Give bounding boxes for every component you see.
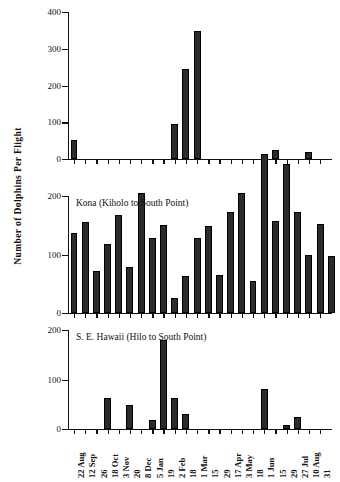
panel-kona-x-tick bbox=[152, 313, 153, 318]
panel-kona-x-tick bbox=[108, 313, 109, 318]
panel-kona-label: Kona (Kiholo to South Point) bbox=[76, 198, 188, 208]
bar bbox=[160, 340, 167, 429]
bar bbox=[149, 420, 156, 429]
panel-top-y-tick-label: 200 bbox=[48, 81, 62, 90]
panel-top-plot-area: 0100200300400 bbox=[68, 12, 332, 160]
panel-kona-x-tick bbox=[320, 313, 321, 318]
bar bbox=[227, 212, 234, 313]
panel-kona-x-tick bbox=[287, 313, 288, 318]
bar bbox=[160, 225, 167, 313]
panel-kona-y-tick-label: 200 bbox=[48, 192, 62, 201]
panel-top-x-tick bbox=[85, 159, 86, 164]
bar bbox=[261, 154, 268, 313]
bar bbox=[171, 124, 178, 159]
panel-se-hawaii-y-tick bbox=[62, 330, 68, 331]
panel-se-hawaii-y-tick-label: 200 bbox=[48, 326, 62, 335]
panel-kona-y-tick bbox=[62, 255, 68, 256]
panel-kona-x-tick bbox=[208, 313, 209, 318]
panel-kona-x-tick bbox=[275, 313, 276, 318]
panel-kona-x-tick bbox=[231, 313, 232, 318]
panel-kona-y-tick bbox=[62, 313, 68, 314]
bar bbox=[82, 222, 89, 313]
panel-top-x-tick bbox=[309, 159, 310, 164]
panel-kona-x-tick bbox=[96, 313, 97, 318]
bar bbox=[93, 271, 100, 313]
bar bbox=[294, 417, 301, 429]
panel-top-y-tick bbox=[62, 49, 68, 50]
panel-top-y-tick-label: 0 bbox=[57, 155, 62, 164]
panel-top-y-tick bbox=[62, 159, 68, 160]
bar bbox=[182, 69, 189, 159]
panel-kona-y-tick-label: 0 bbox=[57, 309, 62, 318]
panel-top-y-tick-label: 300 bbox=[48, 44, 62, 53]
panel-se-hawaii-y-tick bbox=[62, 380, 68, 381]
bar bbox=[305, 255, 312, 314]
bar bbox=[216, 275, 223, 313]
bar bbox=[182, 414, 189, 429]
panel-se-hawaii-y-tick-label: 100 bbox=[48, 375, 62, 384]
panel-top-x-tick bbox=[119, 159, 120, 164]
panel-top-x-tick bbox=[231, 159, 232, 164]
panel-top-y-axis bbox=[68, 12, 69, 160]
panel-kona-x-tick bbox=[175, 313, 176, 318]
panel-top-y-tick-label: 100 bbox=[48, 118, 62, 127]
panel-kona-x-tick bbox=[242, 313, 243, 318]
panel-top-x-tick bbox=[108, 159, 109, 164]
bar bbox=[104, 398, 111, 429]
bar bbox=[328, 256, 335, 313]
bar bbox=[104, 244, 111, 313]
panel-se-hawaii-plot-area: 0100200S. E. Hawaii (Hilo to South Point… bbox=[68, 330, 332, 430]
panel-top-y-tick bbox=[62, 86, 68, 87]
y-axis-title: Number of Dolphins Per Flight bbox=[13, 81, 29, 311]
panel-se-hawaii-y-tick-label: 0 bbox=[57, 425, 62, 434]
bar bbox=[261, 389, 268, 429]
bar bbox=[71, 140, 78, 159]
panel-kona-x-tick bbox=[130, 313, 131, 318]
panel-top-x-tick bbox=[242, 159, 243, 164]
panel-kona-y-axis bbox=[68, 196, 69, 314]
bar bbox=[194, 238, 201, 313]
panel-kona: 0100200Kona (Kiholo to South Point) bbox=[68, 196, 332, 314]
panel-se-hawaii-y-axis bbox=[68, 330, 69, 430]
panel-kona-x-tick bbox=[219, 313, 220, 318]
panel-top-x-tick bbox=[152, 159, 153, 164]
panel-top-x-tick bbox=[74, 159, 75, 164]
panel-kona-x-tick bbox=[298, 313, 299, 318]
bar bbox=[317, 224, 324, 313]
bar bbox=[149, 238, 156, 313]
panel-top-x-tick bbox=[96, 159, 97, 164]
panel-kona-x-tick bbox=[141, 313, 142, 318]
panel-se-hawaii: 0100200S. E. Hawaii (Hilo to South Point… bbox=[68, 330, 332, 430]
bar bbox=[171, 398, 178, 429]
panel-se-hawaii-label: S. E. Hawaii (Hilo to South Point) bbox=[76, 332, 206, 342]
panel-kona-x-tick bbox=[85, 313, 86, 318]
bar bbox=[305, 152, 312, 159]
bar bbox=[126, 405, 133, 429]
panel-top-x-tick bbox=[208, 159, 209, 164]
panel-top-x-tick bbox=[175, 159, 176, 164]
panel-se-hawaii-y-tick bbox=[62, 429, 68, 430]
panel-kona-x-tick bbox=[186, 313, 187, 318]
figure-dolphins-per-flight: Number of Dolphins Per Flight 0100200300… bbox=[0, 0, 340, 482]
panel-kona-x-tick bbox=[119, 313, 120, 318]
bar bbox=[71, 233, 78, 313]
bar bbox=[171, 298, 178, 313]
panel-kona-x-tick bbox=[197, 313, 198, 318]
bar bbox=[294, 212, 301, 313]
bar bbox=[272, 150, 279, 159]
panel-kona-x-tick bbox=[74, 313, 75, 318]
panel-top-x-tick bbox=[320, 159, 321, 164]
bar bbox=[115, 215, 122, 313]
panel-top-x-tick bbox=[219, 159, 220, 164]
bar bbox=[283, 425, 290, 429]
panel-top: 0100200300400 bbox=[68, 12, 332, 160]
panel-top-x-tick bbox=[197, 159, 198, 164]
panel-top-y-tick-label: 400 bbox=[48, 8, 62, 17]
panel-kona-x-tick bbox=[309, 313, 310, 318]
panel-top-x-tick bbox=[253, 159, 254, 164]
panel-top-x-tick bbox=[163, 159, 164, 164]
bar bbox=[205, 226, 212, 313]
panel-top-x-tick bbox=[275, 159, 276, 164]
bar bbox=[126, 267, 133, 313]
panel-top-x-tick bbox=[130, 159, 131, 164]
